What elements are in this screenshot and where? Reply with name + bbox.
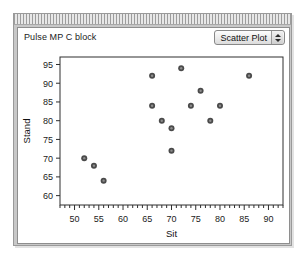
y-axis-tick-label: 70	[43, 154, 53, 164]
y-axis-tick-label: 95	[43, 60, 53, 70]
data-point-core	[209, 119, 211, 121]
data-point-core	[170, 127, 172, 129]
window-titlebar[interactable]	[14, 14, 291, 25]
scatter-plot[interactable]: 5055606570758085906065707580859095SitSta…	[18, 49, 291, 245]
x-axis-tick-label: 65	[142, 214, 152, 224]
data-point-core	[102, 179, 104, 181]
x-axis-tick-label: 75	[191, 214, 201, 224]
data-point-core	[151, 75, 153, 77]
x-axis-tick-label: 55	[94, 214, 104, 224]
data-point-core	[170, 149, 172, 151]
plot-type-stepper[interactable]	[271, 31, 283, 44]
arrow-up-icon[interactable]	[275, 34, 281, 37]
data-point-series	[81, 65, 252, 183]
data-point-core	[151, 105, 153, 107]
data-point-core	[219, 105, 221, 107]
y-axis-tick-label: 80	[43, 116, 53, 126]
x-axis-tick-label: 85	[239, 214, 249, 224]
document-window: Pulse MP C block Scatter Plot 5055606570…	[13, 13, 292, 246]
arrow-down-icon[interactable]	[275, 39, 281, 42]
data-point-core	[248, 75, 250, 77]
x-axis-title: Sit	[166, 228, 177, 239]
plot-type-selected-value: Scatter Plot	[220, 33, 271, 43]
x-axis-tick-label: 70	[166, 214, 176, 224]
data-point-core	[190, 105, 192, 107]
plot-type-select[interactable]: Scatter Plot	[214, 30, 285, 45]
x-axis-tick-label: 80	[215, 214, 225, 224]
y-axis-tick-label: 85	[43, 97, 53, 107]
x-axis-tick-label: 60	[118, 214, 128, 224]
y-axis-tick-label: 90	[43, 79, 53, 89]
data-point-core	[180, 67, 182, 69]
y-axis-title: Stand	[21, 119, 32, 144]
scatter-plot-canvas[interactable]: 5055606570758085906065707580859095SitSta…	[18, 49, 291, 245]
screenshot-root: Pulse MP C block Scatter Plot 5055606570…	[0, 0, 305, 261]
window-content: Pulse MP C block Scatter Plot 5055606570…	[17, 27, 290, 244]
y-axis-tick-label: 75	[43, 135, 53, 145]
x-axis-tick-label: 50	[70, 214, 80, 224]
page-title: Pulse MP C block	[24, 32, 96, 42]
data-point-core	[161, 119, 163, 121]
y-axis-tick-label: 65	[43, 172, 53, 182]
x-axis-tick-label: 90	[263, 214, 273, 224]
data-point-core	[93, 164, 95, 166]
data-point-core	[199, 90, 201, 92]
y-axis-tick-label: 60	[43, 191, 53, 201]
document-header: Pulse MP C block Scatter Plot	[18, 28, 289, 49]
data-point-core	[83, 157, 85, 159]
